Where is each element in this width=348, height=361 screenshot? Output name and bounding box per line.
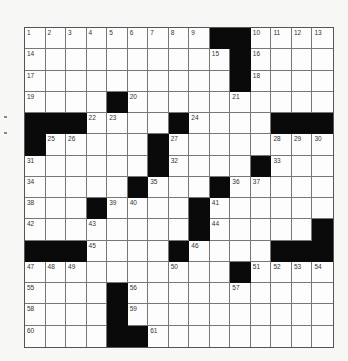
grid-cell[interactable]: 50 — [169, 262, 190, 283]
grid-cell[interactable] — [169, 198, 190, 219]
grid-cell[interactable]: 40 — [128, 198, 149, 219]
grid-cell[interactable]: 11 — [271, 28, 292, 49]
grid-cell[interactable] — [148, 241, 169, 262]
grid-cell[interactable] — [210, 283, 231, 304]
grid-cell[interactable] — [251, 92, 272, 113]
grid-cell[interactable] — [87, 134, 108, 155]
grid-cell[interactable]: 37 — [251, 177, 272, 198]
grid-cell[interactable] — [210, 92, 231, 113]
grid-cell[interactable] — [148, 49, 169, 70]
grid-cell[interactable] — [271, 71, 292, 92]
grid-cell[interactable]: 39 — [107, 198, 128, 219]
grid-cell[interactable] — [46, 326, 67, 347]
grid-cell[interactable]: 41 — [210, 198, 231, 219]
grid-cell[interactable] — [189, 134, 210, 155]
grid-cell[interactable] — [87, 71, 108, 92]
grid-cell[interactable] — [169, 92, 190, 113]
grid-cell[interactable] — [292, 304, 313, 325]
grid-cell[interactable] — [128, 49, 149, 70]
grid-cell[interactable]: 58 — [25, 304, 46, 325]
grid-cell[interactable] — [107, 134, 128, 155]
grid-cell[interactable]: 18 — [251, 71, 272, 92]
grid-cell[interactable] — [107, 49, 128, 70]
grid-cell[interactable] — [66, 326, 87, 347]
grid-cell[interactable] — [107, 241, 128, 262]
grid-cell[interactable]: 6 — [128, 28, 149, 49]
grid-cell[interactable] — [271, 49, 292, 70]
grid-cell[interactable] — [107, 177, 128, 198]
grid-cell[interactable] — [46, 156, 67, 177]
grid-cell[interactable]: 9 — [189, 28, 210, 49]
grid-cell[interactable] — [107, 71, 128, 92]
grid-cell[interactable] — [312, 198, 333, 219]
grid-cell[interactable] — [66, 304, 87, 325]
grid-cell[interactable] — [271, 198, 292, 219]
grid-cell[interactable] — [292, 326, 313, 347]
grid-cell[interactable] — [251, 113, 272, 134]
grid-cell[interactable]: 51 — [251, 262, 272, 283]
grid-cell[interactable] — [46, 92, 67, 113]
grid-cell[interactable] — [292, 71, 313, 92]
grid-cell[interactable] — [107, 219, 128, 240]
grid-cell[interactable]: 19 — [25, 92, 46, 113]
grid-cell[interactable] — [312, 326, 333, 347]
grid-cell[interactable] — [189, 283, 210, 304]
grid-cell[interactable]: 28 — [271, 134, 292, 155]
grid-cell[interactable] — [210, 304, 231, 325]
grid-cell[interactable] — [87, 262, 108, 283]
grid-cell[interactable]: 56 — [128, 283, 149, 304]
grid-cell[interactable]: 13 — [312, 28, 333, 49]
grid-cell[interactable] — [46, 283, 67, 304]
grid-cell[interactable] — [210, 326, 231, 347]
grid-cell[interactable] — [271, 326, 292, 347]
grid-cell[interactable]: 3 — [66, 28, 87, 49]
grid-cell[interactable] — [189, 304, 210, 325]
grid-cell[interactable] — [169, 219, 190, 240]
grid-cell[interactable]: 2 — [46, 28, 67, 49]
grid-cell[interactable] — [189, 92, 210, 113]
grid-cell[interactable] — [292, 283, 313, 304]
grid-cell[interactable] — [128, 113, 149, 134]
grid-cell[interactable] — [128, 71, 149, 92]
grid-cell[interactable] — [148, 283, 169, 304]
grid-cell[interactable]: 59 — [128, 304, 149, 325]
grid-cell[interactable] — [251, 134, 272, 155]
grid-cell[interactable] — [148, 113, 169, 134]
grid-cell[interactable] — [189, 177, 210, 198]
grid-cell[interactable]: 42 — [25, 219, 46, 240]
grid-cell[interactable] — [230, 326, 251, 347]
grid-cell[interactable] — [87, 156, 108, 177]
grid-cell[interactable] — [87, 49, 108, 70]
grid-cell[interactable]: 35 — [148, 177, 169, 198]
grid-cell[interactable] — [169, 71, 190, 92]
grid-cell[interactable] — [292, 177, 313, 198]
grid-cell[interactable] — [66, 198, 87, 219]
grid-cell[interactable] — [292, 219, 313, 240]
grid-cell[interactable] — [148, 219, 169, 240]
grid-cell[interactable]: 5 — [107, 28, 128, 49]
grid-cell[interactable] — [230, 198, 251, 219]
grid-cell[interactable] — [107, 156, 128, 177]
grid-cell[interactable] — [230, 241, 251, 262]
grid-cell[interactable] — [230, 113, 251, 134]
grid-cell[interactable]: 49 — [66, 262, 87, 283]
grid-cell[interactable]: 15 — [210, 49, 231, 70]
grid-cell[interactable]: 47 — [25, 262, 46, 283]
grid-cell[interactable]: 34 — [25, 177, 46, 198]
grid-cell[interactable] — [46, 71, 67, 92]
grid-cell[interactable] — [169, 49, 190, 70]
grid-cell[interactable]: 7 — [148, 28, 169, 49]
grid-cell[interactable] — [46, 304, 67, 325]
grid-cell[interactable]: 16 — [251, 49, 272, 70]
grid-cell[interactable]: 43 — [87, 219, 108, 240]
grid-cell[interactable] — [46, 177, 67, 198]
grid-cell[interactable]: 24 — [189, 113, 210, 134]
grid-cell[interactable] — [312, 177, 333, 198]
grid-cell[interactable] — [210, 71, 231, 92]
grid-cell[interactable]: 48 — [46, 262, 67, 283]
grid-cell[interactable] — [251, 304, 272, 325]
grid-cell[interactable]: 8 — [169, 28, 190, 49]
grid-cell[interactable]: 12 — [292, 28, 313, 49]
grid-cell[interactable] — [312, 92, 333, 113]
grid-cell[interactable]: 26 — [66, 134, 87, 155]
